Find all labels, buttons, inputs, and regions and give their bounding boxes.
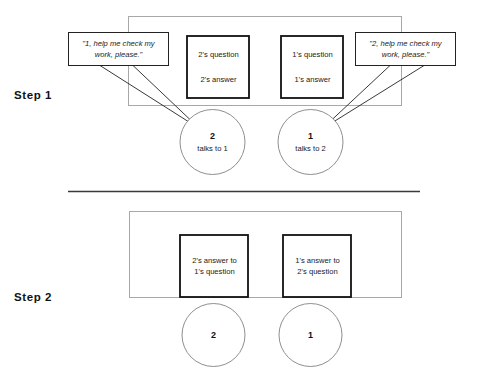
- step1-box-1-answer: 1's answer: [294, 75, 330, 85]
- step-2-label: Step 2: [14, 290, 104, 306]
- step1-box-2-answer: 2's answer: [200, 75, 236, 85]
- step2-outer-frame: [130, 212, 402, 298]
- step2-circle-2-text: 2: [182, 304, 245, 367]
- step1-left-bubble-text: "1, help me check my work, please.": [68, 32, 169, 66]
- step1-right-bubble-line2: work, please.": [378, 49, 433, 60]
- step2-box-1-answer-line1: 1's answer to: [295, 256, 340, 266]
- step1-circle-1-number: 1: [308, 130, 313, 142]
- step2-circle-1-number: 1: [308, 329, 313, 341]
- step2-box-2-answer-line2: 1's question: [194, 267, 234, 277]
- step1-left-bubble-line1: "1, help me check my: [78, 38, 158, 49]
- figure-canvas: correct final answer: [0, 0, 480, 387]
- step2-circle-2-number: 2: [211, 329, 216, 341]
- step1-box-2-question: 2's question: [198, 50, 238, 60]
- step2-circle-1-text: 1: [279, 304, 342, 367]
- step1-circle-2-caption: talks to 1: [197, 144, 227, 154]
- step-1-label: Step 1: [14, 88, 104, 104]
- step1-circle-1-caption: talks to 2: [295, 144, 325, 154]
- step2-box-2-answer-text: 2's answer to 1's question: [180, 235, 249, 298]
- step2-box-2-answer-line1: 2's answer to: [192, 256, 237, 266]
- step1-box-1-question: 1's question: [292, 50, 332, 60]
- step1-right-bubble-text: "2, help me check my work, please.": [355, 32, 456, 66]
- step1-circle-2-number: 2: [210, 130, 215, 142]
- step1-circle-1-text: 1 talks to 2: [278, 110, 343, 175]
- step2-box-1-answer-line2: 2's question: [297, 267, 337, 277]
- step2-box-1-answer-text: 1's answer to 2's question: [283, 235, 352, 298]
- step1-box-2-qa-text: 2's question 2's answer: [187, 36, 250, 99]
- step1-box-1-qa-text: 1's question 1's answer: [281, 36, 344, 99]
- step1-left-bubble-line2: work, please.": [91, 49, 146, 60]
- step1-right-bubble-line1: "2, help me check my: [365, 38, 445, 49]
- step1-circle-2-text: 2 talks to 1: [180, 110, 245, 175]
